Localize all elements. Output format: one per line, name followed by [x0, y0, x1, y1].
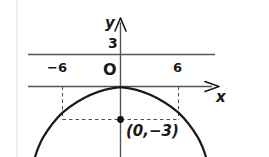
- parabola-figure: y x 3 O −6 6 (0,−3): [0, 0, 269, 157]
- y-axis-label: y: [105, 16, 115, 31]
- y-value-three-label: 3: [108, 36, 118, 50]
- origin-label: O: [103, 62, 117, 78]
- x-tick-label-six: 6: [173, 61, 182, 74]
- x-tick-label-negative-six: −6: [47, 61, 67, 74]
- vertex-point-label: (0,−3): [126, 124, 179, 139]
- vertex-point-marker: [117, 116, 124, 123]
- x-axis-label: x: [216, 90, 226, 105]
